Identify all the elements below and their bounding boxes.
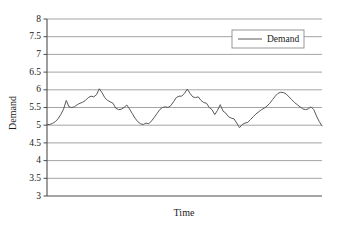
y-axis-tick-label: 7.5 <box>29 31 41 41</box>
legend-label-demand: Demand <box>267 34 299 44</box>
y-axis-tick-label: 5 <box>36 120 41 130</box>
demand-line-chart: 33.544.555.566.577.58 Demand Time Demand <box>0 0 341 226</box>
y-axis-tick-label: 8 <box>36 14 41 24</box>
y-axis-tick-label: 7 <box>36 49 41 59</box>
y-axis-tick-label: 3 <box>36 191 41 201</box>
legend[interactable]: Demand <box>232 30 304 48</box>
y-axis-tick-label: 6.5 <box>29 67 41 77</box>
y-axis-tick-label: 3.5 <box>29 173 41 183</box>
x-axis-title: Time <box>174 207 195 218</box>
y-axis-tick-label: 4.5 <box>29 138 41 148</box>
y-axis-tick-label: 6 <box>36 84 41 94</box>
chart-container: 33.544.555.566.577.58 Demand Time Demand <box>0 0 341 226</box>
y-axis-tick-label: 4 <box>36 155 41 165</box>
y-axis-tick-label: 5.5 <box>29 102 41 112</box>
y-axis-title: Demand <box>7 96 18 130</box>
